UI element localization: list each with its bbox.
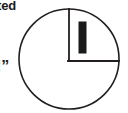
circle-quadrant-diagram [0, 0, 128, 113]
filled-vertical-bar [79, 22, 86, 53]
figure-canvas: ted !” [0, 0, 128, 113]
clipped-text-fragment-mid-left: !” [0, 59, 9, 75]
clipped-text-fragment-top-left: ted [0, 0, 16, 12]
